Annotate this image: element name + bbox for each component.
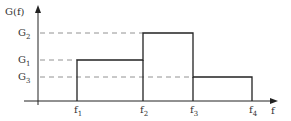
x-axis-label: f bbox=[271, 105, 276, 116]
f2-label: f2 bbox=[140, 104, 148, 118]
f1-label: f1 bbox=[74, 104, 82, 118]
g2-label: G2 bbox=[18, 27, 30, 41]
y-axis-label: G(f) bbox=[5, 6, 25, 17]
g3-label: G3 bbox=[18, 71, 30, 85]
g1-label: G1 bbox=[18, 54, 30, 68]
f4-label: f4 bbox=[249, 104, 258, 118]
spectrum-diagram: G(f) G2 G1 G3 f1 f2 f3 f4 f bbox=[0, 0, 291, 121]
y-axis-arrow-icon bbox=[35, 5, 41, 13]
f3-label: f3 bbox=[190, 104, 198, 118]
x-axis-arrow-icon bbox=[270, 98, 278, 104]
step-function bbox=[77, 33, 252, 101]
